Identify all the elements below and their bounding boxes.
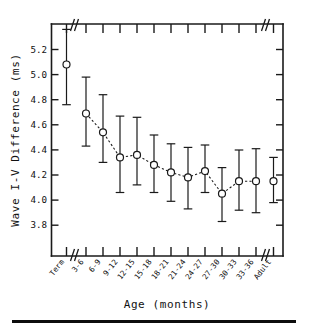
data-marker	[151, 161, 158, 168]
data-point-group	[269, 157, 278, 202]
data-point-group	[82, 77, 91, 146]
data-point-group	[99, 95, 108, 163]
data-point-group	[62, 29, 71, 104]
data-marker	[117, 154, 124, 161]
x-axis-ticks-bottom	[67, 247, 274, 256]
data-point-group	[133, 117, 142, 185]
y-tick-label: 4.4	[30, 144, 47, 155]
data-point-group	[167, 144, 176, 202]
data-marker	[219, 190, 226, 197]
x-tick-label: Term	[48, 257, 67, 277]
y-axis-title: Wave I-V Difference (ms)	[9, 53, 22, 226]
data-point-group	[201, 145, 210, 193]
y-tick-label: 5.2	[30, 44, 47, 55]
y-tick-label: 5.0	[30, 69, 47, 80]
data-point-group	[184, 147, 193, 209]
x-tick-label: 33-36	[234, 257, 255, 281]
axis-break-top-right	[262, 19, 270, 31]
y-tick-label: 4.8	[30, 94, 47, 105]
x-axis-ticks-top	[67, 24, 274, 33]
data-marker	[63, 61, 70, 68]
data-marker	[83, 110, 90, 117]
y-axis-ticks-left	[52, 50, 59, 226]
data-marker	[168, 169, 175, 176]
axis-break-top-left	[71, 19, 79, 31]
data-marker	[185, 174, 192, 181]
figure-bottom-rule	[12, 320, 296, 323]
data-point-group	[252, 149, 261, 213]
data-marker	[253, 178, 260, 185]
data-marker	[236, 178, 243, 185]
data-point-group	[218, 168, 227, 222]
y-tick-label: 3.8	[30, 219, 47, 230]
data-marker	[134, 151, 141, 158]
x-tick-label: 3-6	[70, 257, 86, 274]
x-tick-label: Adult	[252, 258, 273, 282]
chart-canvas: 5.2 5.0 4.8 4.6 4.4 4.2 4.0 3.8	[0, 0, 316, 330]
data-marker	[100, 129, 107, 136]
y-tick-label: 4.2	[30, 169, 47, 180]
y-tick-label: 4.0	[30, 194, 47, 205]
x-axis-tick-labels: Term 3-6 6-9 9-12 12-15 15-18 18-21 21-2…	[48, 257, 273, 281]
y-tick-label: 4.6	[30, 119, 47, 130]
data-marker	[270, 178, 277, 185]
data-point-group	[235, 150, 244, 210]
data-marker	[202, 168, 209, 175]
y-axis-ticks-right	[276, 50, 283, 226]
data-point-group	[150, 135, 159, 193]
data-point-group	[116, 116, 125, 192]
y-axis-tick-labels: 5.2 5.0 4.8 4.6 4.4 4.2 4.0 3.8	[30, 44, 47, 231]
figure-panel: 5.2 5.0 4.8 4.6 4.4 4.2 4.0 3.8	[0, 0, 316, 330]
x-axis-title: Age (months)	[124, 298, 211, 311]
